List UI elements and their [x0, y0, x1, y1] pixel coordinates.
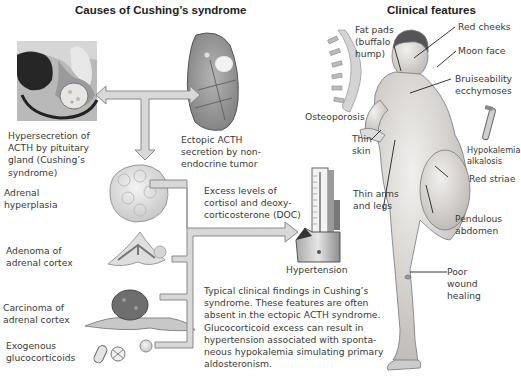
carcinoma-label: Carcinoma of adrenal cortex — [3, 302, 70, 326]
excess-cortisol-label: Excess levels of cortisol and deoxy- cor… — [204, 185, 301, 222]
lung-illustration — [187, 33, 238, 130]
red-cheeks-label: Red cheeks — [458, 21, 511, 33]
bruiseability-label: Bruiseability ecchymoses — [455, 73, 512, 97]
hypokalemia-label: Hypokalemia alkalosis — [467, 145, 520, 167]
moon-face-label: Moon face — [458, 45, 505, 57]
sphygmomanometer-illustration — [296, 168, 340, 262]
hypertension-label: Hypertension — [286, 264, 347, 276]
fat-pads-label: Fat pads (buffalo hump) — [355, 24, 394, 61]
hyperplasia-label: Adrenal hyperplasia — [4, 187, 58, 211]
adenoma-illustration — [108, 232, 166, 266]
pills-illustration — [93, 340, 152, 364]
causes-title: Causes of Cushing’s syndrome — [75, 4, 246, 16]
red-striae-label: Red striae — [469, 173, 515, 185]
pituitary-illustration — [17, 41, 97, 121]
pituitary-label: Hypersecretion of ACTH by pituitary glan… — [8, 130, 90, 179]
test-tube-illustration — [482, 105, 496, 140]
thin-limbs-label: Thin arms and legs — [353, 188, 399, 212]
clinical-features-title: Clinical features — [387, 4, 476, 16]
wound-healing-label: Poor wound healing — [447, 266, 481, 303]
adrenal-hyperplasia-illustration — [110, 165, 168, 222]
adenoma-label: Adenoma of adrenal cortex — [6, 245, 73, 269]
caption-text: Typical clinical findings in Cushing’s s… — [204, 285, 383, 370]
exogenous-label: Exogenous glucocorticoids — [6, 340, 75, 364]
thin-skin-label: Thin skin — [352, 133, 372, 157]
osteoporosis-label: Osteoporosis — [305, 111, 365, 123]
ectopic-label: Ectopic ACTH secretion by non- endocrine… — [181, 134, 261, 171]
pendulous-abdomen-label: Pendulous abdomen — [455, 213, 502, 237]
